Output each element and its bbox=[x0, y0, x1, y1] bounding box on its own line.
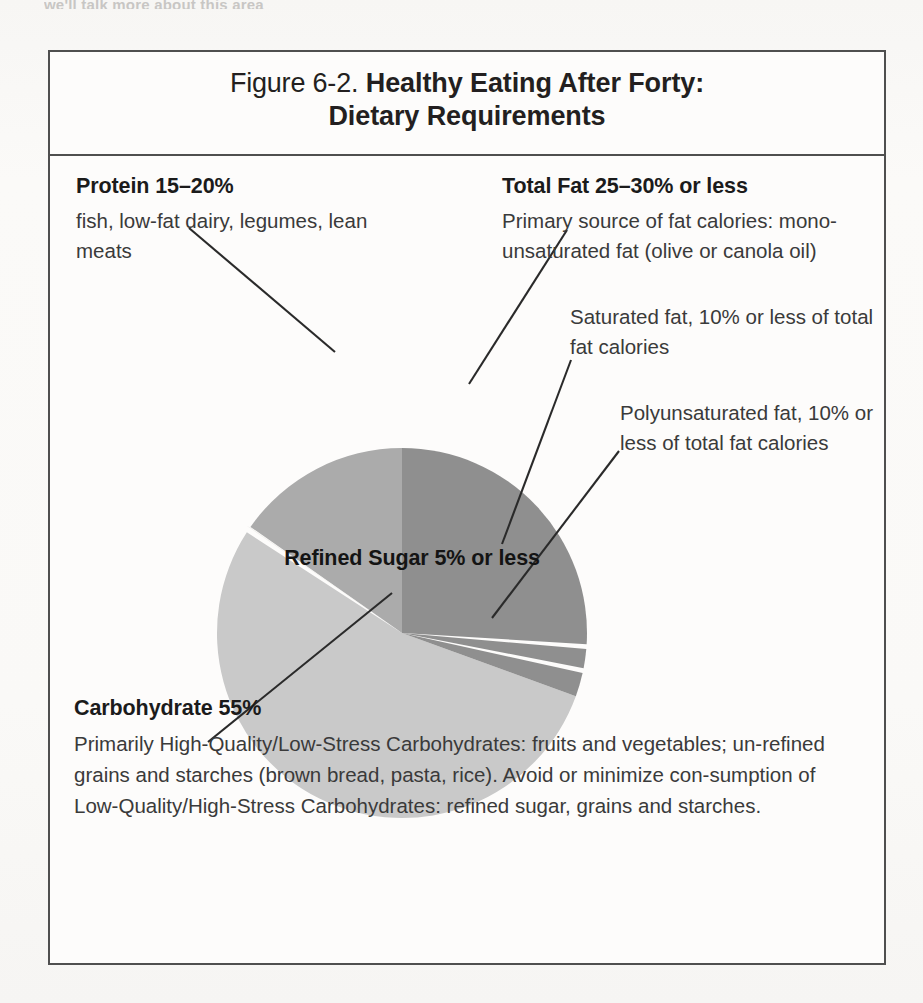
annotation-carbohydrate-heading: Carbohydrate 55% bbox=[74, 696, 864, 721]
annotation-polyunsaturated-fat: Polyunsaturated fat, 10% or less of tota… bbox=[620, 398, 910, 457]
annotation-saturated-fat: Saturated fat, 10% or less of total fat … bbox=[570, 302, 900, 361]
annotation-refined-sugar: Refined Sugar 5% or less bbox=[202, 546, 622, 571]
pie-slice-polyunsaturated-fat bbox=[402, 633, 583, 696]
figure-title-line1: Healthy Eating After Forty: bbox=[366, 68, 704, 98]
annotation-protein-body: fish, low-fat dairy, legumes, lean meats bbox=[76, 206, 376, 265]
pie-slice-protein bbox=[250, 448, 402, 633]
annotation-polyunsaturated-fat-body: Polyunsaturated fat, 10% or less of tota… bbox=[620, 398, 910, 457]
annotation-protein-heading: Protein 15–20% bbox=[76, 174, 376, 199]
figure-box: Figure 6-2. Healthy Eating After Forty: … bbox=[48, 50, 886, 965]
figure-number: Figure 6-2. bbox=[230, 68, 358, 98]
figure-title-line2: Dietary Requirements bbox=[328, 101, 605, 131]
annotation-carbohydrate: Carbohydrate 55% Primarily High-Quality/… bbox=[74, 696, 864, 821]
leader-lines bbox=[189, 228, 619, 742]
annotation-carbohydrate-body: Primarily High-Quality/Low-Stress Carboh… bbox=[74, 728, 864, 821]
annotation-total-fat-body: Primary source of fat calories: mono-uns… bbox=[502, 206, 892, 265]
leader-line-polyunsaturated-fat bbox=[492, 451, 619, 618]
pie-divider-protein-carb bbox=[247, 526, 402, 633]
annotation-total-fat: Total Fat 25–30% or less Primary source … bbox=[502, 174, 892, 265]
annotation-total-fat-heading: Total Fat 25–30% or less bbox=[502, 174, 892, 199]
annotation-saturated-fat-body: Saturated fat, 10% or less of total fat … bbox=[570, 302, 900, 361]
pie-slice-saturated-fat bbox=[402, 633, 586, 668]
bleed-through-text: we'll talk more about this area bbox=[44, 0, 374, 9]
figure-caption: Figure 6-2. Healthy Eating After Forty: … bbox=[50, 52, 884, 156]
annotation-protein: Protein 15–20% fish, low-fat dairy, legu… bbox=[76, 174, 376, 265]
figure-body: Protein 15–20% fish, low-fat dairy, legu… bbox=[50, 156, 884, 963]
leader-line-saturated-fat bbox=[502, 360, 571, 544]
